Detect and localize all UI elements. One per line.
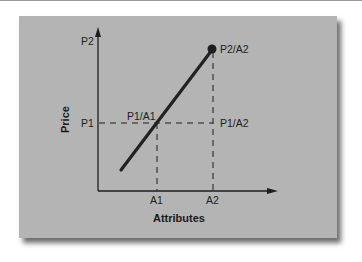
tick-label-p2: P2 <box>81 35 94 47</box>
point-label-p1-a2: P1/A2 <box>220 117 249 129</box>
y-axis-title: Price <box>59 106 71 133</box>
x-axis-arrow-icon <box>267 188 278 194</box>
price-attributes-diagram: P2 P1 A1 A2 P1/A1 P1/A2 P2/A2 Attributes… <box>0 0 362 262</box>
point-label-p1-a1: P1/A1 <box>127 110 156 122</box>
p2-a2-point-marker <box>208 45 217 54</box>
tick-label-a2: A2 <box>206 194 219 206</box>
point-label-p2-a2: P2/A2 <box>220 43 249 55</box>
y-axis-arrow-icon <box>95 27 101 37</box>
x-axis-title: Attributes <box>153 212 205 224</box>
tick-label-a1: A1 <box>150 194 163 206</box>
tick-label-p1: P1 <box>81 117 94 129</box>
